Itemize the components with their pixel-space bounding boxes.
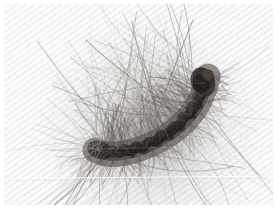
photo-margin-bottom bbox=[0, 205, 278, 210]
photo-margin-left bbox=[0, 0, 4, 210]
caterpillar-photo bbox=[0, 0, 278, 210]
photo-margin-right bbox=[273, 0, 278, 210]
photo-margin-top bbox=[0, 0, 278, 4]
photograph-frame bbox=[0, 0, 278, 210]
